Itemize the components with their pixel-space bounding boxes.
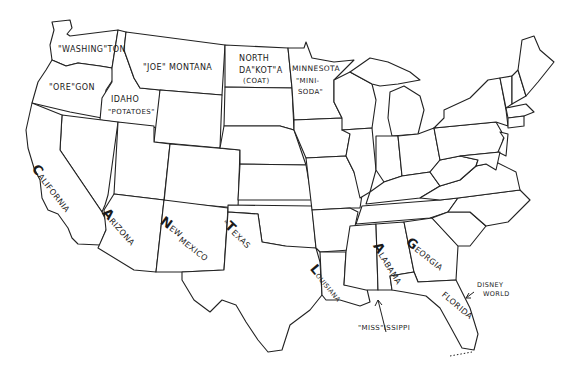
- state-colorado: [164, 144, 240, 208]
- state-new-york: [434, 78, 508, 128]
- label-disney-line2: WORLD: [483, 291, 510, 298]
- label-idaho-line1: IDAHO: [111, 96, 139, 105]
- us-map-outline: [0, 0, 583, 377]
- label-washington: "WASHING"TON: [58, 46, 126, 55]
- label-mississippi: "MISS"ISSIPPI: [358, 325, 410, 333]
- florida-keys: [450, 352, 472, 356]
- label-north-dakota-line2: DA"KOT"A: [239, 67, 283, 76]
- label-north-dakota-line3: (COAT): [243, 78, 270, 86]
- label-minnesota-line1: MINNESOTA: [292, 65, 340, 73]
- label-oregon: "ORE"GON: [49, 84, 95, 93]
- state-maine: [518, 36, 554, 96]
- state-connecticut: [508, 116, 524, 128]
- state-kansas: [238, 164, 312, 200]
- label-north-dakota-line1: NORTH: [239, 55, 269, 64]
- label-minnesota-line2: "MINI-: [296, 78, 320, 86]
- label-minnesota-line3: SODA": [298, 89, 323, 97]
- state-michigan-lower: [388, 86, 424, 136]
- state-wyoming: [154, 90, 222, 148]
- state-new-mexico: [156, 200, 228, 272]
- disney-world-arrow: [466, 292, 474, 298]
- state-south-dakota: [224, 87, 294, 130]
- state-mississippi: [344, 224, 378, 290]
- label-montana: "JOE" MONTANA: [143, 64, 212, 73]
- state-washington: [50, 20, 118, 68]
- state-massachusetts: [506, 104, 534, 118]
- label-idaho-line2: "POTATOES": [108, 109, 155, 117]
- label-disney-line1: DISNEY: [477, 282, 503, 289]
- state-indiana: [376, 136, 402, 182]
